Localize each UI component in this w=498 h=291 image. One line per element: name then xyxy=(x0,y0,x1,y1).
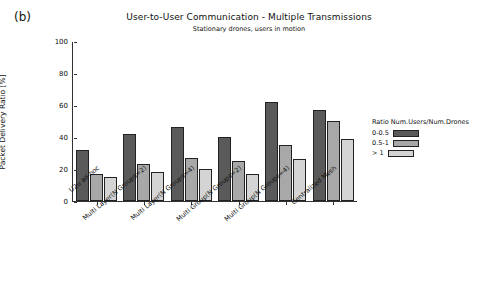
bar xyxy=(90,174,103,201)
y-tick-label: 80 xyxy=(59,70,73,78)
x-tick-mark xyxy=(333,201,334,205)
legend: Ratio Num.Users/Num.Drones 0-0.50.5-1> 1 xyxy=(372,118,469,159)
y-tick-mark xyxy=(74,138,77,139)
legend-entries: 0-0.50.5-1> 1 xyxy=(372,129,469,157)
y-tick-mark xyxy=(74,74,77,75)
legend-label: > 1 xyxy=(372,149,384,157)
bar xyxy=(218,137,231,201)
legend-entry: > 1 xyxy=(372,149,469,157)
y-tick-mark xyxy=(74,106,77,107)
legend-title: Ratio Num.Users/Num.Drones xyxy=(372,118,469,126)
bar xyxy=(171,127,184,201)
legend-swatch xyxy=(393,130,419,137)
figure-panel: (b) User-to-User Communication - Multipl… xyxy=(0,0,498,291)
legend-entry: 0-0.5 xyxy=(372,129,469,137)
bar xyxy=(327,121,340,201)
chart-subtitle: Stationary drones, users in motion xyxy=(0,25,498,33)
legend-entry: 0.5-1 xyxy=(372,139,469,147)
bar xyxy=(123,134,136,201)
y-tick-mark xyxy=(74,170,77,171)
y-tick-label: 40 xyxy=(59,134,73,142)
bar-groups xyxy=(73,42,357,201)
y-axis-label: Packet Delivery Ratio [%] xyxy=(0,42,10,202)
y-tick-label: 60 xyxy=(59,102,73,110)
y-tick-mark xyxy=(74,42,77,43)
legend-swatch xyxy=(388,150,414,157)
y-tick-mark xyxy=(74,202,77,203)
bar xyxy=(341,139,354,201)
y-tick-label: 20 xyxy=(59,166,73,174)
y-tick-label: 100 xyxy=(55,38,73,46)
legend-label: 0.5-1 xyxy=(372,139,389,147)
legend-label: 0-0.5 xyxy=(372,129,389,137)
chart-title: User-to-User Communication - Multiple Tr… xyxy=(0,12,498,22)
legend-swatch xyxy=(393,140,419,147)
